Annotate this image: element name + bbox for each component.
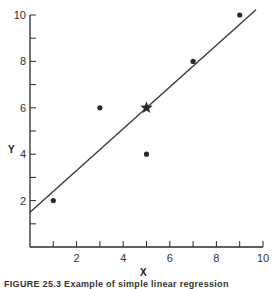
y-tick-label: 10 bbox=[14, 9, 26, 21]
x-tick-label: 2 bbox=[74, 252, 80, 264]
ticks bbox=[30, 15, 263, 247]
tick-labels: 246810246810 bbox=[14, 9, 269, 264]
x-tick-label: 8 bbox=[213, 252, 219, 264]
point-marker bbox=[51, 198, 56, 203]
x-axis-label: X bbox=[140, 267, 147, 278]
fit-line bbox=[30, 10, 256, 213]
x-tick-label: 4 bbox=[120, 252, 126, 264]
point-marker bbox=[144, 152, 149, 157]
point-marker bbox=[237, 12, 242, 17]
point-marker bbox=[191, 59, 196, 64]
regression-line bbox=[30, 10, 256, 213]
y-tick-label: 4 bbox=[20, 148, 26, 160]
y-tick-label: 6 bbox=[20, 102, 26, 114]
y-tick-label: 8 bbox=[20, 55, 26, 67]
figure-caption: FIGURE 25.3 Example of simple linear reg… bbox=[4, 279, 229, 289]
point-marker bbox=[97, 105, 102, 110]
axes bbox=[30, 15, 263, 247]
x-tick-label: 10 bbox=[257, 252, 269, 264]
data-points bbox=[51, 12, 243, 203]
x-tick-label: 6 bbox=[167, 252, 173, 264]
y-axis-label: Y bbox=[8, 144, 15, 155]
y-tick-label: 2 bbox=[20, 195, 26, 207]
